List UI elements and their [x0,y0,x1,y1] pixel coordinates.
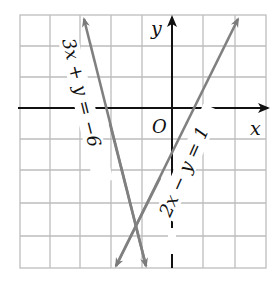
x-axis-label: x [250,117,261,139]
grid [20,15,266,268]
axes [18,17,268,268]
coordinate-graph: y x O 3x + y = −6 2x − y = 1 [0,0,274,284]
y-axis-label: y [150,17,162,39]
line-label-3x-plus-y: 3x + y = −6 [58,36,105,149]
origin-label: O [152,116,167,137]
